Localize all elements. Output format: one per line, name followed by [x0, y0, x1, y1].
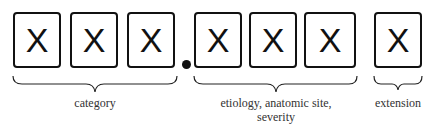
etiology-brace: [194, 76, 357, 92]
extension-label: extension: [358, 96, 434, 111]
extension-brace: [374, 76, 422, 90]
category-label: category: [45, 96, 145, 111]
etiology-label-line1: etiology, anatomic site,: [206, 96, 346, 111]
category-brace: [13, 76, 177, 92]
etiology-label-line2: severity: [206, 110, 346, 125]
